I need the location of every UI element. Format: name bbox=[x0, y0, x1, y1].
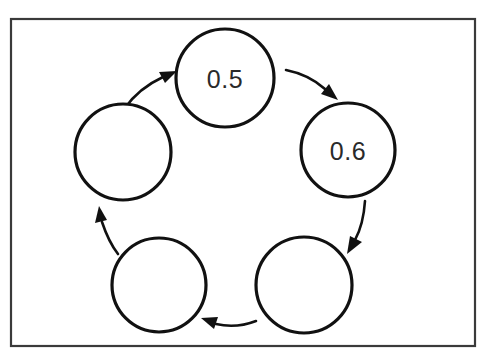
arrow-top-to-upper-right-shaft bbox=[286, 70, 325, 89]
arrow-upper-right-to-lower-right bbox=[347, 201, 365, 254]
node-top[interactable]: 0.5 bbox=[176, 29, 274, 127]
cycle-diagram: 0.5 0.6 bbox=[0, 0, 496, 359]
arrow-lower-left-to-upper-left-shaft bbox=[102, 222, 118, 254]
node-upper-left-circle[interactable] bbox=[75, 104, 171, 200]
node-lower-left[interactable] bbox=[112, 238, 206, 332]
arrow-upper-left-to-top bbox=[125, 71, 177, 108]
arrow-lower-left-to-upper-left bbox=[95, 206, 118, 254]
arrow-upper-right-to-lower-right-head bbox=[347, 236, 362, 254]
arrow-top-to-upper-right bbox=[286, 70, 338, 100]
node-upper-right-label: 0.6 bbox=[330, 137, 366, 165]
arrow-upper-right-to-lower-right-shaft bbox=[355, 201, 365, 240]
node-lower-right[interactable] bbox=[256, 237, 352, 333]
node-top-label: 0.5 bbox=[207, 65, 243, 93]
arrow-lower-right-to-lower-left bbox=[201, 317, 256, 329]
node-lower-left-circle[interactable] bbox=[112, 238, 206, 332]
diagram-canvas: 0.5 0.6 bbox=[0, 0, 496, 359]
arrow-lower-right-to-lower-left-shaft bbox=[216, 321, 256, 326]
node-upper-left[interactable] bbox=[75, 104, 171, 200]
arrow-lower-left-to-upper-left-head bbox=[95, 206, 107, 223]
arrow-lower-right-to-lower-left-head bbox=[201, 317, 218, 329]
node-upper-right[interactable]: 0.6 bbox=[301, 103, 395, 197]
node-lower-right-circle[interactable] bbox=[256, 237, 352, 333]
